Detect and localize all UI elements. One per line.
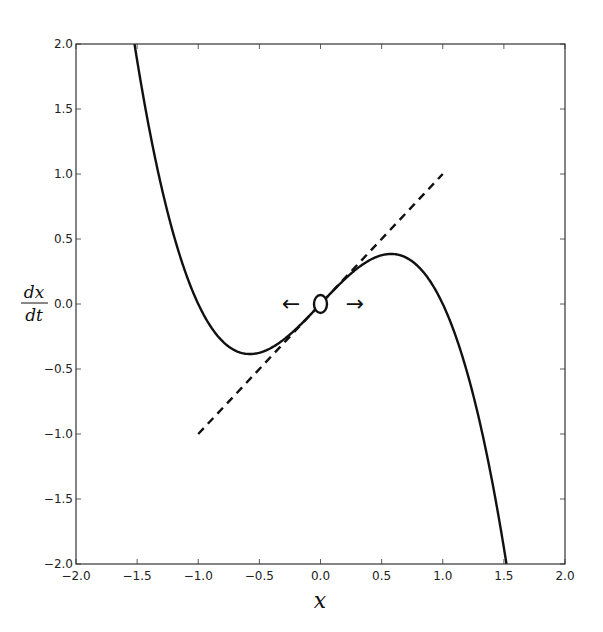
x-tick-label: 0.5 bbox=[372, 569, 391, 583]
x-tick-label: −2.0 bbox=[61, 569, 90, 583]
y-tick-label: 0.0 bbox=[54, 297, 73, 311]
y-tick-label: −0.5 bbox=[44, 362, 73, 376]
y-axis-label-numerator: dx bbox=[24, 282, 45, 302]
left-arrow-icon: ← bbox=[282, 291, 300, 316]
plot-area bbox=[125, 0, 516, 628]
x-tick-label: 1.0 bbox=[433, 569, 452, 583]
y-tick-label: −2.0 bbox=[44, 557, 73, 571]
y-tick-label: 1.5 bbox=[54, 102, 73, 116]
y-tick-label: −1.5 bbox=[44, 492, 73, 506]
right-arrow-icon: → bbox=[346, 291, 364, 316]
y-axis-label-denominator: dt bbox=[25, 305, 43, 325]
x-tick-label: 0.0 bbox=[311, 569, 330, 583]
x-tick-label: 1.5 bbox=[494, 569, 513, 583]
x-tick-label: −0.5 bbox=[245, 569, 274, 583]
phase-line-chart: −2.0−1.5−1.0−0.50.00.51.01.52.02.01.51.0… bbox=[0, 0, 603, 632]
x-axis-label: x bbox=[314, 588, 327, 613]
x-tick-label: 2.0 bbox=[555, 569, 574, 583]
y-tick-label: −1.0 bbox=[44, 427, 73, 441]
x-tick-label: −1.0 bbox=[184, 569, 213, 583]
fixed-point-circle bbox=[314, 295, 327, 313]
x-tick-label: −1.5 bbox=[123, 569, 152, 583]
y-tick-label: 0.5 bbox=[54, 232, 73, 246]
y-axis-label: dx dt bbox=[21, 282, 48, 325]
y-tick-label: 1.0 bbox=[54, 167, 73, 181]
cubic-curve bbox=[125, 0, 516, 628]
y-tick-label: 2.0 bbox=[54, 37, 73, 51]
